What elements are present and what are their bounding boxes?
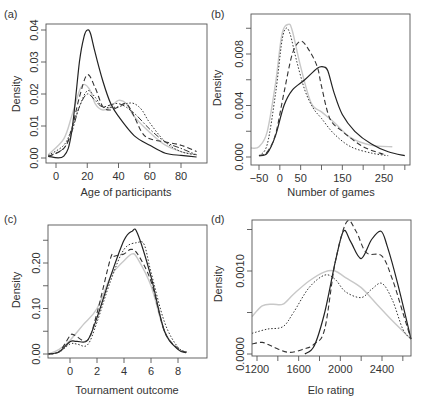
x-tick-label: 0 bbox=[53, 170, 59, 182]
y-tick-label: 0.0000 bbox=[234, 337, 246, 371]
y-tick-label: 0.0010 bbox=[234, 254, 246, 288]
y-tick-label: 0.01 bbox=[28, 115, 40, 136]
panel-c-xlabel: Tournament outcome bbox=[75, 384, 178, 396]
x-tick-label: −50 bbox=[250, 172, 269, 184]
panel-b-label: (b) bbox=[211, 8, 224, 20]
x-tick-label: 2400 bbox=[370, 363, 394, 375]
figure-canvas: (a) Density Age of participants 02040608… bbox=[0, 0, 422, 404]
density-curve-grey bbox=[48, 84, 196, 154]
panel-a: (a) Density Age of participants 02040608… bbox=[4, 8, 207, 198]
density-curve-dashed bbox=[48, 75, 196, 157]
density-curve-dash-dot bbox=[48, 94, 196, 157]
y-tick-label: 0.03 bbox=[28, 51, 40, 72]
density-curve-solid bbox=[48, 229, 186, 354]
panel-d-frame bbox=[252, 220, 411, 356]
density-curve-grey bbox=[48, 254, 186, 354]
x-tick-label: 20 bbox=[81, 170, 93, 182]
x-tick-label: 1600 bbox=[286, 363, 310, 375]
density-curve-solid bbox=[305, 230, 411, 354]
y-tick-label: 0.20 bbox=[30, 252, 42, 273]
panel-c-ylabel: Density bbox=[10, 271, 22, 308]
panel-a-label: (a) bbox=[4, 8, 17, 20]
panel-c-label: (c) bbox=[4, 213, 17, 225]
x-tick-label: 150 bbox=[333, 172, 351, 184]
panel-b-series bbox=[251, 24, 405, 156]
y-tick-label: 0.02 bbox=[28, 83, 40, 104]
panel-a-series bbox=[48, 30, 196, 158]
panel-d-axes: 12001600200024000.00000.0010 bbox=[234, 230, 403, 376]
x-tick-label: 2000 bbox=[328, 363, 352, 375]
density-curve-dotted bbox=[259, 28, 388, 156]
x-tick-label: 4 bbox=[121, 365, 127, 377]
panel-a-ylabel: Density bbox=[10, 75, 22, 112]
panel-b-xlabel: Number of games bbox=[287, 186, 375, 198]
panel-c: (c) Density Tournament outcome 024680.00… bbox=[4, 213, 207, 396]
panel-d-series bbox=[252, 220, 411, 354]
y-tick-label: 0.000 bbox=[233, 143, 245, 171]
x-tick-label: 6 bbox=[148, 365, 154, 377]
x-tick-label: 50 bbox=[295, 172, 307, 184]
y-tick-label: 0.00 bbox=[28, 147, 40, 168]
panel-d-xlabel: Elo rating bbox=[308, 384, 354, 396]
density-curve-dashed bbox=[259, 41, 384, 156]
panel-d-label: (d) bbox=[211, 213, 224, 225]
x-tick-label: 0 bbox=[67, 365, 73, 377]
panel-b-axes: −500501502500.0000.0040.008 bbox=[233, 28, 405, 184]
x-tick-label: 0 bbox=[277, 172, 283, 184]
y-tick-label: 0.10 bbox=[30, 298, 42, 319]
density-curve-dashed bbox=[48, 249, 186, 354]
panel-b: (b) Density Number of games −50050150250… bbox=[211, 8, 410, 198]
y-tick-label: 0.004 bbox=[233, 92, 245, 120]
x-tick-label: 60 bbox=[144, 170, 156, 182]
y-tick-label: 0.008 bbox=[233, 40, 245, 68]
density-curve-solid bbox=[48, 30, 196, 158]
panel-a-xlabel: Age of participants bbox=[80, 186, 172, 198]
x-tick-label: 80 bbox=[175, 170, 187, 182]
panel-c-series bbox=[48, 229, 188, 354]
x-tick-label: 8 bbox=[175, 365, 181, 377]
density-curve-dashed bbox=[252, 220, 411, 352]
x-tick-label: 250 bbox=[375, 172, 393, 184]
x-tick-label: 1200 bbox=[245, 363, 269, 375]
y-tick-label: 0.00 bbox=[30, 343, 42, 364]
panel-d-ylabel: Density bbox=[212, 265, 224, 302]
x-tick-label: 40 bbox=[112, 170, 124, 182]
panel-d: (d) Density Elo rating 12001600200024000… bbox=[211, 213, 411, 396]
x-tick-label: 2 bbox=[94, 365, 100, 377]
panel-b-ylabel: Density bbox=[211, 69, 223, 106]
y-tick-label: 0.04 bbox=[28, 19, 40, 40]
